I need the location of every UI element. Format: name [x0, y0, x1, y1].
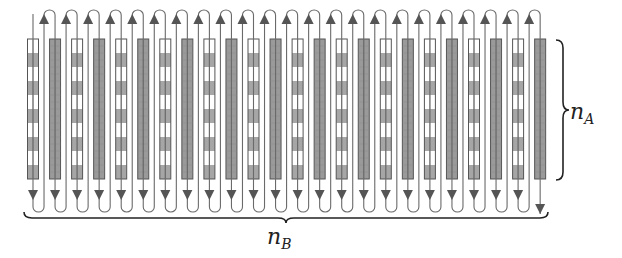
- arrow-up-icon: [436, 14, 446, 24]
- arrow-down-icon: [425, 190, 435, 200]
- arrow-down-icon: [28, 190, 38, 200]
- arrow-up-icon: [458, 14, 468, 24]
- arrow-down-icon: [226, 190, 236, 200]
- label-n-a: nA: [570, 101, 594, 126]
- arrow-down-icon: [138, 190, 148, 200]
- arrow-down-icon: [359, 190, 369, 200]
- label-n-b-base: n: [267, 224, 281, 249]
- arrow-up-icon: [282, 14, 292, 24]
- arrow-down-icon: [72, 190, 82, 200]
- arrow-down-icon: [160, 190, 170, 200]
- arrow-down-icon: [491, 190, 501, 200]
- arrow-down-icon: [293, 190, 303, 200]
- horizontal-brace: [24, 212, 548, 223]
- arrow-down-icon: [182, 190, 192, 200]
- vertical-brace: [556, 40, 569, 180]
- arrow-down-icon: [249, 190, 259, 200]
- arrow-up-icon: [105, 14, 115, 24]
- arrow-up-icon: [524, 14, 534, 24]
- label-n-a-base: n: [570, 99, 584, 124]
- arrow-up-icon: [215, 14, 225, 24]
- label-n-b-sub: B: [281, 236, 291, 252]
- arrow-up-icon: [39, 14, 49, 24]
- arrow-down-icon: [315, 190, 325, 200]
- label-n-a-sub: A: [584, 111, 594, 127]
- arrow-up-icon: [260, 14, 270, 24]
- arrow-down-icon: [116, 190, 126, 200]
- arrow-down-icon: [50, 190, 60, 200]
- arrow-up-icon: [149, 14, 159, 24]
- arrow-up-icon: [127, 14, 137, 24]
- arrow-down-icon: [337, 190, 347, 200]
- arrow-down-icon: [381, 190, 391, 200]
- arrow-down-icon: [513, 190, 523, 200]
- arrow-up-icon: [61, 14, 71, 24]
- arrow-down-icon: [403, 190, 413, 200]
- arrow-up-icon: [480, 14, 490, 24]
- arrow-up-icon: [171, 14, 181, 24]
- arrow-up-icon: [348, 14, 358, 24]
- arrow-up-icon: [370, 14, 380, 24]
- arrow-down-icon: [271, 190, 281, 200]
- arrow-up-icon: [326, 14, 336, 24]
- arrow-up-icon: [193, 14, 203, 24]
- arrow-up-icon: [502, 14, 512, 24]
- arrow-up-icon: [414, 14, 424, 24]
- snake-path: [28, 10, 545, 214]
- arrow-down-icon: [94, 190, 104, 200]
- arrow-down-icon: [535, 204, 545, 214]
- arrow-up-icon: [304, 14, 314, 24]
- arrow-up-icon: [83, 14, 93, 24]
- arrow-up-icon: [237, 14, 247, 24]
- arrow-down-icon: [204, 190, 214, 200]
- arrow-down-icon: [447, 190, 457, 200]
- arrow-down-icon: [469, 190, 479, 200]
- label-n-b: nB: [267, 226, 291, 251]
- snake-path-diagram: [0, 0, 622, 258]
- arrow-up-icon: [392, 14, 402, 24]
